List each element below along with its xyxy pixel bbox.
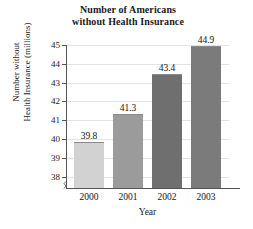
y-tick-mark: [62, 139, 66, 140]
y-tick-label: 43: [51, 78, 60, 87]
chart-figure: Number of Americans without Health Insur…: [0, 0, 253, 229]
x-tick-label: 2002: [158, 192, 177, 202]
y-tick-mark: [62, 83, 66, 84]
axis-break-icon: [63, 181, 70, 189]
x-tick-label: 2001: [119, 192, 138, 202]
x-axis-title: Year: [66, 207, 229, 217]
x-tick-label: 2000: [80, 192, 99, 202]
y-tick-label: 44: [51, 59, 60, 68]
y-tick-label: 40: [51, 135, 60, 144]
bar-2002: 43.42002: [152, 74, 182, 188]
y-tick-mark: [62, 45, 66, 46]
bar-2001: 41.32001: [113, 114, 143, 188]
y-axis-title-line-2: Health Insurance (millions): [22, 23, 33, 122]
bar-2003: 44.92003: [191, 46, 221, 188]
bar-value-label: 44.9: [198, 35, 215, 45]
y-tick-label: 41: [51, 116, 60, 125]
bar-value-label: 43.4: [159, 63, 176, 73]
x-axis-line: [66, 188, 240, 189]
bar-value-label: 41.3: [120, 103, 137, 113]
y-axis-title-line-1: Number without: [11, 23, 22, 122]
chart-title-line-2: without Health Insurance: [28, 16, 228, 28]
y-tick-mark: [62, 64, 66, 65]
y-tick-mark: [62, 158, 66, 159]
y-tick-mark: [62, 120, 66, 121]
y-tick-mark: [62, 177, 66, 178]
bar-2000: 39.82000: [74, 142, 104, 188]
x-tick-label: 2003: [197, 192, 216, 202]
y-axis-line: [66, 45, 67, 188]
y-tick-label: 42: [51, 97, 60, 106]
bar-value-label: 39.8: [81, 131, 98, 141]
y-tick-mark: [62, 101, 66, 102]
y-tick-label: 45: [51, 41, 60, 50]
chart-title: Number of Americans without Health Insur…: [28, 4, 228, 27]
y-tick-label: 39: [51, 153, 60, 162]
plot-area: 3839404142434445 39.8200041.3200143.4200…: [66, 45, 229, 188]
chart-title-line-1: Number of Americans: [28, 4, 228, 16]
y-axis-title: Number without Health Insurance (million…: [8, 0, 36, 147]
y-tick-label: 38: [51, 172, 60, 181]
